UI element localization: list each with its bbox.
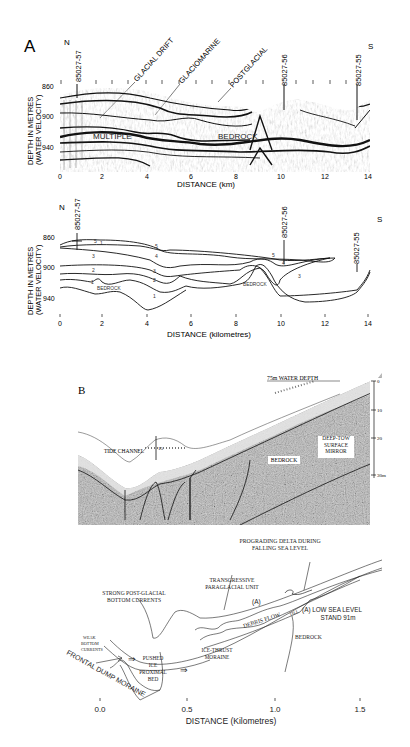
x-tick: 10 [277, 320, 285, 327]
layer-5: 5 [94, 238, 97, 244]
x-axis-title: DISTANCE (Kilometres) [186, 716, 277, 726]
bedrock-label-2: BEDROCK [243, 282, 268, 287]
x-tick: 8 [234, 320, 238, 327]
labels: PROGRADING DELTA DURING FALLING SEA LEVE… [66, 538, 363, 698]
low-sea-level-label-1: (A) LOW SEA LEVEL [302, 606, 362, 614]
y-tick-900: 900 [43, 264, 55, 271]
x-tick: 0 [58, 320, 62, 327]
layer-numbers: 5 1 3 5 4 2 3 2 1 1 5 4 3 [91, 238, 301, 299]
x-axis-title: DISTANCE (km) [177, 180, 235, 189]
layer-5: 5 [272, 252, 275, 258]
weak-label-2: BOTTOM [81, 641, 99, 646]
seismic-profile-a [58, 84, 374, 174]
core-label-85027-55: 85027-55 [352, 232, 361, 264]
weak-label-1: WEAK [83, 635, 96, 640]
x-tick: 10 [277, 173, 285, 180]
x-tick: 14 [364, 320, 372, 327]
y-axis-title-line2: (WATER VELOCITY) [34, 244, 43, 315]
unit-a-label: (A) [252, 598, 261, 606]
layer-5: 5 [155, 243, 158, 249]
layer-3: 3 [298, 273, 301, 279]
bedrock-label: BEDROCK [295, 634, 322, 640]
x-tick: 1.5 [354, 705, 366, 714]
arrow-icon: ⇒ [128, 654, 136, 664]
x-tick: 0.0 [94, 705, 106, 714]
weak-label-3: CURRENTS [81, 647, 104, 652]
transgressive-label-2: PARAGLACIAL UNIT [205, 584, 259, 590]
pushed-label-2: ICE [149, 662, 158, 668]
water-depth-label: 75m WATER DEPTH [267, 375, 319, 381]
layer-1: 1 [100, 240, 103, 246]
strong-currents-label-1: STRONG POST-GLACIAL [102, 590, 166, 596]
low-sea-level-label-2: STAND 91m [321, 614, 356, 621]
bedrock-label: BEDROCK [271, 457, 297, 463]
x-tick: 14 [364, 173, 372, 180]
scale-tick-10: 10 [377, 408, 383, 413]
x-tick: 2 [100, 173, 104, 180]
tide-channel-label: TIDE CHANNEL [104, 448, 145, 454]
north-label: N [64, 38, 70, 47]
layer-3: 3 [92, 253, 95, 259]
north-label: N [59, 203, 65, 212]
arrow-icon: ⇒ [180, 665, 188, 675]
unit-label-glacial-drift: GLACIAL DRIFT [132, 36, 176, 84]
layer-1: 1 [91, 279, 94, 285]
y-axis-title-line2: (WATER VELOCITY) [34, 94, 43, 165]
x-tick: 2 [100, 320, 104, 327]
x-tick: 6 [189, 320, 193, 327]
multiple-label: MULTIPLE [93, 132, 132, 141]
x-tick: 0.5 [181, 705, 193, 714]
x-tick: 4 [145, 173, 149, 180]
south-label: S [368, 42, 373, 51]
till-label: TILL [289, 609, 300, 617]
scale-tick-20: 20 [377, 436, 383, 441]
x-ticks-interp [60, 314, 368, 317]
panel-b-label: B [78, 384, 85, 396]
prograding-delta-label-2: FALLING SEA LEVEL [252, 545, 309, 551]
unit-label-glaciomarine: GLACIOMARINE [177, 37, 222, 86]
y-tick-860: 860 [43, 234, 55, 241]
strong-currents-label-2: BOTTOM CURRENTS [107, 597, 161, 603]
bedrock-label: BEDROCK [218, 132, 258, 141]
depth-scale: 0 10 20 30m [370, 378, 386, 530]
core-label-85027-56: 85027-56 [280, 54, 289, 86]
layer-4: 4 [155, 253, 158, 259]
fill-dashes [275, 381, 315, 393]
south-label: S [377, 215, 382, 224]
y-tick-940: 940 [42, 144, 54, 151]
ice-thrust-label-2: MORAINE [205, 654, 230, 660]
layer-1: 1 [153, 293, 156, 299]
pushed-label-4: BED [148, 676, 159, 682]
core-label-85027-55: 85027-55 [354, 54, 363, 86]
x-tick: 12 [321, 173, 329, 180]
core-label-85027-57: 85027-57 [74, 50, 83, 82]
x-axis-b: 0.0 0.5 1.0 1.5 DISTANCE (Kilometres) [94, 705, 366, 726]
cut-off-caption [14, 738, 404, 747]
x-axis-a: 0 2 4 6 8 10 12 14 DISTANCE (km) [58, 173, 372, 189]
x-tick: 1.0 [269, 705, 281, 714]
bedrock-label-1: BEDROCK [97, 286, 122, 291]
y-axis-a-interp: DEPTH IN METRES (WATER VELOCITY) 860 900… [26, 234, 55, 315]
layer-4: 4 [282, 260, 285, 266]
interpretation-lines [60, 233, 370, 310]
x-ticks-b [100, 698, 360, 701]
figure-canvas: A N S 85027-57 85027-56 85027-55 GLACIAL… [0, 0, 410, 747]
y-tick-940: 940 [43, 295, 55, 302]
panel-b: B 15 75m WATER DEPTH TIDE [76, 370, 386, 530]
x-tick: 12 [321, 320, 329, 327]
y-axis-a: DEPTH IN METRES (WATER VELOCITY) 860 900… [26, 83, 54, 165]
x-axis-a-interp: 0 2 4 6 8 10 12 14 DISTANCE (kilometres) [58, 320, 372, 339]
x-tick: 0 [58, 173, 62, 180]
x-axis-title: DISTANCE (kilometres) [167, 330, 251, 339]
x-tick: 4 [145, 320, 149, 327]
x-tick: 6 [189, 173, 193, 180]
layer-3: 3 [153, 268, 156, 274]
layer-2: 2 [153, 277, 156, 283]
scale-tick-30: 30m [377, 473, 386, 478]
x-tick: 8 [234, 173, 238, 180]
panel-a-label: A [24, 37, 36, 56]
pushed-label-1: PUSHED [143, 655, 164, 661]
deep-tow-label: DEEP-TOW SURFACE MIRROR [316, 435, 356, 461]
debris-flow-label: DEBRIS FLOW [242, 611, 281, 629]
panel-a: A N S 85027-57 85027-56 85027-55 GLACIAL… [24, 36, 374, 189]
